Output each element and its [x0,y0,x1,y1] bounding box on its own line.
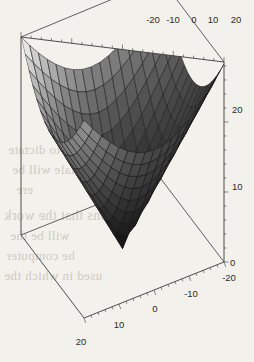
surface-patch [211,64,224,87]
x-axis-tick-label: -10 [166,14,180,25]
tick-mark [98,312,99,315]
tick-mark [217,265,218,268]
tick-mark [168,284,169,287]
y-axis-tick-label: 20 [76,336,87,347]
tick-mark [182,279,183,282]
y-axis-tick-label: 0 [152,303,157,314]
tick-mark [112,307,113,310]
x-axis-tick-label: -20 [146,14,160,25]
tick-mark [126,301,127,304]
tick-mark [196,273,197,276]
tick-mark [224,262,226,267]
tick-mark [189,276,191,281]
tick-mark [140,296,141,299]
surface-mesh [21,0,224,248]
y-axis-tick-label: -10 [184,288,198,299]
tick-mark [154,290,156,295]
z-axis-tick-label: 10 [232,181,243,192]
tick-mark [175,282,176,285]
surface-plot-canvas: -20-100102020100-20-1001020 [0,0,254,362]
tick-mark [161,287,162,290]
tick-mark [147,293,148,296]
tick-mark [105,310,106,313]
y-axis-tick-label: -20 [222,272,236,283]
surface-plot-figure: an to dictatetale will beeretions that t… [0,0,254,362]
x-axis-tick-label: 0 [191,14,196,25]
z-axis-tick-label: 20 [232,104,243,115]
x-axis-tick-label: 20 [231,14,242,25]
tick-mark [84,318,86,323]
tick-mark [210,268,211,271]
tick-mark [91,315,92,318]
z-axis-tick-label: 0 [230,257,235,268]
tick-mark [133,298,134,301]
y-axis-tick-label: 10 [114,319,125,330]
tick-mark [119,304,121,309]
x-axis-tick-label: 10 [208,14,219,25]
tick-mark [203,270,204,273]
surface-patch [152,0,165,14]
